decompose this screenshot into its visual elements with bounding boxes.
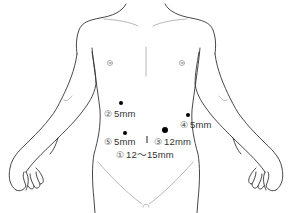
port-2-size: 5mm	[114, 108, 135, 119]
port-1-number: ①	[116, 150, 124, 160]
port-2-label: ②5mm	[104, 109, 136, 119]
torso-diagram: ②5mm ④5mm ⑤5mm ③12mm ①12～15mm	[0, 0, 291, 213]
port-4-size: 5mm	[190, 119, 211, 130]
port-4-number: ④	[180, 120, 188, 130]
port-2-number: ②	[104, 109, 112, 119]
port-5-dot	[123, 131, 127, 135]
port-2-dot	[119, 101, 123, 105]
torso-outline	[0, 0, 291, 213]
port-3-label: ③12mm	[154, 137, 191, 147]
port-3-dot	[162, 127, 168, 133]
port-5-label: ⑤5mm	[104, 137, 136, 147]
port-5-number: ⑤	[104, 137, 112, 147]
port-4-label: ④5mm	[180, 120, 212, 130]
port-1-size: 12～15mm	[126, 149, 174, 160]
port-3-size: 12mm	[164, 136, 191, 147]
port-1-label: ①12～15mm	[116, 150, 174, 160]
port-3-number: ③	[154, 137, 162, 147]
port-4-dot	[186, 113, 190, 117]
port-5-size: 5mm	[114, 136, 135, 147]
